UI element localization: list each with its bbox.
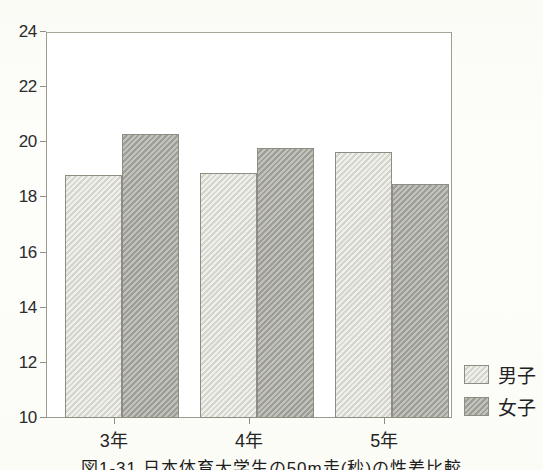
bar-male — [65, 175, 122, 418]
x-axis-tick-group: 5年 — [317, 418, 452, 458]
y-axis-tick-label: 16 — [19, 244, 37, 262]
y-axis-tick: 10 — [0, 409, 46, 427]
y-axis-tick: 14 — [0, 299, 46, 317]
bar-male — [335, 152, 392, 418]
x-axis-tick-label: 3年 — [46, 426, 181, 452]
y-axis-tick: 20 — [0, 133, 46, 151]
legend-item-male: 男子 — [464, 358, 542, 390]
x-axis-tick-group: 4年 — [181, 418, 316, 458]
legend-label-male: 男子 — [498, 361, 536, 388]
x-axis-tick-label: 5年 — [317, 426, 452, 452]
bar-female — [392, 184, 449, 418]
bar-female — [122, 134, 179, 418]
legend-swatch-male — [464, 365, 489, 384]
y-axis-tick-label: 12 — [19, 354, 37, 372]
x-axis-tick-label: 4年 — [181, 426, 316, 452]
y-axis: 1012141618202224 — [0, 0, 46, 470]
legend: 男子女子 — [464, 358, 542, 422]
y-axis-tick-label: 18 — [19, 188, 37, 206]
y-axis-tick-label: 14 — [19, 299, 37, 317]
y-axis-tick: 24 — [0, 23, 46, 41]
y-axis-tick-label: 22 — [19, 78, 37, 96]
x-axis-tick-mark — [249, 418, 250, 424]
x-axis-tick-group: 3年 — [46, 418, 181, 458]
figure-container: 1012141618202224 3年4年5年 男子女子 図1-31 日本体育大… — [0, 0, 543, 470]
x-axis-tick-mark — [114, 418, 115, 424]
y-axis-tick: 16 — [0, 244, 46, 262]
legend-label-female: 女子 — [498, 393, 536, 420]
bars-layer — [46, 32, 452, 418]
y-axis-tick-label: 20 — [19, 133, 37, 151]
figure-caption: 図1-31 日本体育大学生の50m走(秒)の性差比較 — [0, 459, 543, 470]
y-axis-tick-label: 24 — [19, 23, 37, 41]
legend-swatch-female — [464, 397, 489, 416]
y-axis-tick: 22 — [0, 78, 46, 96]
bar-female — [257, 148, 314, 418]
y-axis-tick: 12 — [0, 354, 46, 372]
y-axis-tick-label: 10 — [19, 409, 37, 427]
x-axis-tick-mark — [384, 418, 385, 424]
figure-caption-text: 図1-31 日本体育大学生の50m走(秒)の性差比較 — [0, 459, 543, 470]
x-axis: 3年4年5年 — [46, 418, 452, 458]
bar-male — [200, 173, 257, 418]
y-axis-tick: 18 — [0, 188, 46, 206]
legend-item-female: 女子 — [464, 390, 542, 422]
